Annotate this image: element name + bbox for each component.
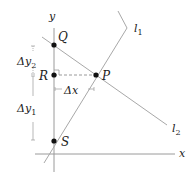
y-axis-label: y [48, 10, 56, 23]
point-s-label: S [61, 135, 69, 149]
point-q [51, 42, 56, 47]
x-axis-label: x [179, 147, 186, 160]
point-r [51, 72, 56, 77]
point-p [93, 72, 98, 77]
point-p-label: P [101, 69, 111, 83]
line-l1-label: l1 [134, 22, 143, 37]
dy1-label: Δy1 [16, 102, 36, 117]
line-l2-label: l2 [172, 122, 181, 137]
dx-label: Δx [63, 84, 79, 97]
dy2-label: Δy2 [16, 55, 36, 70]
slope-diagram: x y l1 l2 Q R P S Δy2 Δy1 Δx [0, 0, 193, 185]
point-s [51, 138, 56, 143]
point-q-label: Q [58, 30, 68, 44]
point-r-label: R [38, 69, 48, 83]
